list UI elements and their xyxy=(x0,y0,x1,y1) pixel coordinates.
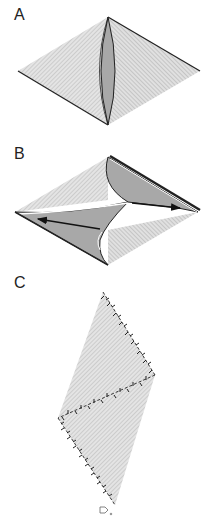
panel-a-right-half xyxy=(108,17,200,125)
panel-c-diagram xyxy=(58,292,155,515)
panel-b-lower-right xyxy=(108,212,198,265)
panel-a-left-half xyxy=(18,17,108,125)
panel-b-diagram xyxy=(15,156,200,265)
panel-b-upper-left xyxy=(15,157,108,212)
panel-c-rhombus xyxy=(58,292,155,505)
needle-icon xyxy=(100,507,112,515)
panel-a-diagram xyxy=(18,17,200,125)
figure-canvas xyxy=(0,0,210,522)
